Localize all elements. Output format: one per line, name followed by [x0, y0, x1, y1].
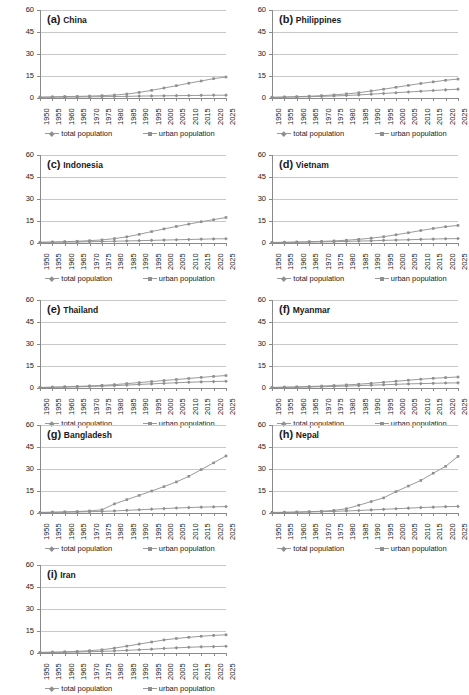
x-tick-label: 1960: [300, 108, 308, 125]
panel-id: (i): [47, 568, 57, 580]
legend-item-urban-population[interactable]: urban population: [143, 685, 215, 693]
data-point-marker: [150, 507, 154, 511]
x-tick-label: 1965: [80, 108, 88, 125]
data-point-marker: [456, 505, 460, 509]
legend-item-urban-population[interactable]: urban population: [143, 275, 215, 283]
x-tick-label: 2015: [204, 253, 212, 270]
data-point-marker: [113, 237, 116, 240]
legend-item-total-population[interactable]: total population: [45, 275, 112, 283]
legend-item-total-population[interactable]: total population: [277, 130, 344, 138]
chart-panel-vietnam: 0153045601950195519601965197019751980198…: [232, 145, 463, 285]
legend-item-total-population[interactable]: total population: [277, 275, 344, 283]
data-point-marker: [187, 380, 191, 384]
x-tick-label: 1970: [325, 523, 333, 540]
legend-item-total-population[interactable]: total population: [277, 545, 344, 553]
data-point-marker: [431, 505, 435, 509]
x-tick-label: 1975: [105, 398, 113, 415]
panel-title: (i) Iran: [47, 569, 76, 581]
x-tick-mark: [226, 98, 227, 101]
x-tick-label: 1960: [300, 523, 308, 540]
data-point-marker: [88, 510, 91, 513]
data-point-marker: [137, 239, 141, 243]
data-point-marker: [407, 90, 411, 94]
legend-label: total population: [293, 130, 344, 138]
x-tick-label: 1985: [362, 108, 370, 125]
panel-id: (b): [279, 13, 293, 25]
legend-label: total population: [61, 130, 112, 138]
x-tick-label: 2015: [436, 523, 444, 540]
x-tick-label: 2020: [217, 398, 225, 415]
data-point-marker: [126, 93, 129, 96]
x-tick-label: 1950: [43, 108, 51, 125]
legend-item-urban-population[interactable]: urban population: [143, 545, 215, 553]
data-point-marker: [150, 380, 153, 383]
x-tick-label: 2020: [217, 108, 225, 125]
data-point-marker: [407, 485, 410, 488]
x-tick-label: 1955: [55, 108, 63, 125]
x-tick-label: 1950: [43, 663, 51, 680]
data-point-marker: [225, 76, 228, 79]
data-point-marker: [200, 468, 203, 471]
x-tick-label: 2015: [204, 398, 212, 415]
panel-title: (d) Vietnam: [279, 159, 329, 171]
x-tick-label: 1990: [142, 108, 150, 125]
data-point-marker: [420, 479, 423, 482]
data-point-marker: [225, 634, 228, 637]
x-tick-label: 2010: [424, 108, 432, 125]
y-axis-labels: 015304560: [0, 425, 37, 513]
legend-label: urban population: [159, 275, 215, 283]
x-tick-label: 2010: [424, 253, 432, 270]
x-tick-label: 1955: [287, 523, 295, 540]
x-tick-label: 1980: [117, 663, 125, 680]
y-axis-labels: 015304560: [0, 300, 37, 388]
legend-item-urban-population[interactable]: urban population: [143, 130, 215, 138]
data-point-marker: [199, 94, 203, 98]
y-axis-labels: 015304560: [0, 10, 37, 98]
data-point-marker: [407, 506, 411, 510]
data-point-marker: [456, 237, 460, 241]
data-point-marker: [187, 645, 191, 649]
y-tick-label: 45: [232, 173, 266, 181]
x-tick-label: 1950: [275, 398, 283, 415]
y-axis-labels: 015304560: [232, 10, 269, 98]
x-tick-label: 2000: [167, 398, 175, 415]
panel-country-name: Philippines: [296, 15, 341, 25]
legend-marker-icon: [375, 130, 389, 137]
legend-item-urban-population[interactable]: urban population: [375, 130, 447, 138]
data-point-marker: [175, 381, 179, 385]
y-axis-labels: 015304560: [232, 155, 269, 243]
data-point-marker: [88, 95, 91, 98]
y-tick-label: 0: [232, 94, 266, 102]
legend-item-total-population[interactable]: total population: [45, 545, 112, 553]
data-point-marker: [212, 375, 215, 378]
data-point-marker: [212, 237, 216, 241]
data-point-marker: [188, 82, 191, 85]
y-tick-label: 60: [232, 296, 266, 304]
data-point-marker: [126, 236, 129, 239]
x-tick-label: 1965: [312, 398, 320, 415]
data-point-marker: [369, 508, 373, 512]
chart-panel-thailand: 0153045601950195519601965197019751980198…: [0, 290, 231, 430]
x-tick-label: 2010: [424, 523, 432, 540]
x-tick-label: 1960: [300, 253, 308, 270]
legend-item-total-population[interactable]: total population: [45, 130, 112, 138]
x-tick-label: 1985: [130, 108, 138, 125]
x-tick-mark: [226, 653, 227, 656]
data-point-marker: [444, 237, 448, 241]
legend-item-urban-population[interactable]: urban population: [375, 545, 447, 553]
chart-panel-iran: 0153045601950195519601965197019751980198…: [0, 555, 231, 695]
data-point-marker: [101, 384, 104, 387]
legend-label: urban population: [391, 130, 447, 138]
x-tick-label: 1995: [155, 253, 163, 270]
data-point-marker: [358, 91, 361, 94]
data-point-marker: [200, 80, 203, 83]
y-axis-labels: 015304560: [232, 300, 269, 388]
data-point-marker: [162, 507, 166, 511]
y-tick-label: 60: [0, 151, 34, 159]
x-tick-label: 1995: [387, 523, 395, 540]
legend-item-urban-population[interactable]: urban population: [375, 275, 447, 283]
legend-item-total-population[interactable]: total population: [45, 685, 112, 693]
x-tick-label: 1950: [275, 108, 283, 125]
data-point-marker: [212, 380, 216, 384]
data-point-marker: [150, 230, 153, 233]
